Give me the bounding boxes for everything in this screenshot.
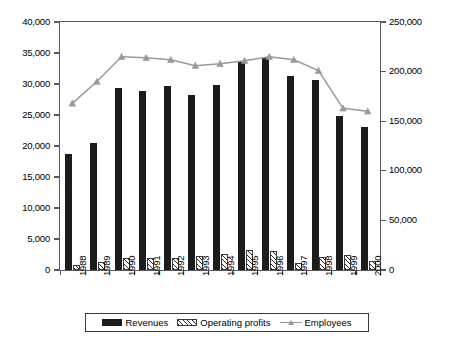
legend-item-employees: Employees	[280, 317, 352, 328]
x-tick-label: 1993	[200, 256, 211, 276]
y-tick-label-right: 100,000	[389, 164, 422, 175]
legend-item-revenues: Revenues	[102, 317, 168, 328]
operating-profits-swatch-icon	[177, 319, 197, 326]
y-tick-right	[380, 170, 386, 171]
x-tick-label: 1995	[249, 256, 260, 276]
revenues-swatch-icon	[102, 319, 122, 326]
y-tick-label-left: 0	[0, 264, 50, 275]
chart-container: MUSD 05,00010,00015,00020,00025,00030,00…	[0, 0, 452, 339]
x-tick-label: 1994	[225, 256, 236, 276]
y-tick-right	[380, 21, 386, 22]
x-tick-label: 1990	[126, 256, 137, 276]
x-tick-label: 1989	[101, 256, 112, 276]
plot-area	[60, 22, 380, 270]
legend-label-operating-profits: Operating profits	[200, 317, 270, 328]
y-tick-label-left: 10,000	[0, 202, 50, 213]
x-tick-label: 1999	[348, 256, 359, 276]
y-tick-label-left: 25,000	[0, 109, 50, 120]
x-tick-label: 2000	[372, 256, 383, 276]
y-tick-label-right: 0	[389, 264, 394, 275]
y-tick-right	[380, 71, 386, 72]
x-tick-label: 1997	[298, 256, 309, 276]
employees-swatch-icon	[280, 319, 302, 327]
y-tick-label-left: 15,000	[0, 171, 50, 182]
y-tick-label-left: 40,000	[0, 16, 50, 27]
employees-line-series	[60, 22, 380, 270]
x-tick-label: 1998	[323, 256, 334, 276]
legend-label-employees: Employees	[305, 317, 352, 328]
x-tick	[60, 270, 61, 275]
y-tick-right	[380, 121, 386, 122]
y-tick-label-right: 250,000	[389, 16, 422, 27]
y-tick-label-left: 20,000	[0, 140, 50, 151]
y-tick-label-right: 200,000	[389, 65, 422, 76]
x-tick-label: 1992	[175, 256, 186, 276]
y-tick-label-left: 30,000	[0, 78, 50, 89]
y-tick-label-left: 35,000	[0, 47, 50, 58]
y-tick-label-left: 5,000	[0, 233, 50, 244]
y-tick-right	[380, 220, 386, 221]
y-tick-label-right: 50,000	[389, 214, 417, 225]
legend-item-operating-profits: Operating profits	[177, 317, 270, 328]
x-tick-label: 1988	[77, 256, 88, 276]
x-tick-label: 1996	[274, 256, 285, 276]
chart-legend: Revenues Operating profits Employees	[85, 313, 369, 332]
legend-label-revenues: Revenues	[125, 317, 168, 328]
y-tick-label-right: 150,000	[389, 115, 422, 126]
y-axis-right-line	[380, 21, 381, 271]
x-tick-label: 1991	[151, 256, 162, 276]
